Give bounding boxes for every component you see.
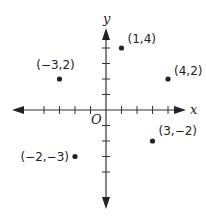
coordinate-plane: x y O (1,4)(−3,2)(4,2)(3,−2)(−2,−3) (0, 0, 206, 221)
point-marker (150, 138, 155, 143)
point-marker (72, 154, 77, 159)
y-axis-down-arrow-icon (102, 197, 110, 209)
y-axis-up-arrow-icon (102, 28, 110, 40)
data-point: (3,−2) (150, 124, 197, 144)
data-point: (1,4) (119, 32, 156, 51)
origin-label: O (91, 112, 102, 127)
data-point: (4,2) (165, 64, 202, 82)
data-point: (−3,2) (36, 58, 75, 82)
point-label: (−3,2) (36, 58, 75, 72)
x-axis-left-arrow-icon (12, 106, 24, 114)
x-axis: x (12, 102, 198, 117)
point-label: (−2,−3) (20, 150, 69, 164)
point-label: (1,4) (128, 32, 156, 46)
point-marker (165, 76, 170, 81)
point-marker (119, 45, 124, 50)
y-axis-label: y (102, 11, 111, 26)
x-axis-right-arrow-icon (174, 106, 186, 114)
point-label: (4,2) (174, 64, 202, 78)
data-point: (−2,−3) (20, 150, 77, 164)
x-axis-label: x (190, 102, 198, 117)
data-points: (1,4)(−3,2)(4,2)(3,−2)(−2,−3) (20, 32, 202, 164)
point-marker (57, 76, 62, 81)
point-label: (3,−2) (159, 124, 198, 138)
